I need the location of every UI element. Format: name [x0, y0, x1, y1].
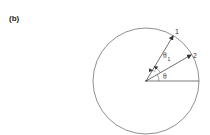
theta1-arc-inner: [152, 71, 155, 72]
vector-2-label: 2: [193, 52, 197, 59]
theta1-arc: [155, 67, 161, 73]
theta-label: θ: [163, 72, 167, 81]
theta-arc: [157, 75, 159, 82]
vector-1-label: 1: [175, 28, 179, 35]
theta1-label: θ: [163, 51, 167, 60]
center-point: [145, 80, 147, 82]
circle-diagram: 1 2 θ θ 1: [0, 0, 210, 135]
theta1-subscript: 1: [168, 56, 171, 62]
